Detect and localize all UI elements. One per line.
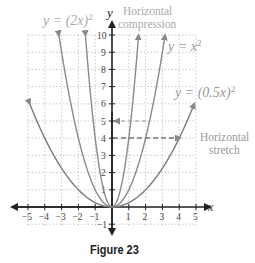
x-tick-label: −5	[22, 212, 32, 222]
y-tick-label: 9	[101, 48, 106, 58]
y-tick-label: −1	[97, 220, 107, 230]
x-tick-label: 3	[159, 212, 164, 222]
y-tick-label: 2	[101, 168, 106, 178]
y-axis-label: y	[105, 5, 113, 20]
x-tick-label: 2	[143, 212, 148, 222]
x-tick-label: −2	[72, 212, 82, 222]
x-tick-label: −3	[56, 212, 66, 222]
figure-caption: Figure 23	[90, 244, 139, 257]
y-tick-label: 10	[97, 31, 107, 41]
x-tick-label: 4	[176, 212, 181, 222]
y-tick-label: 5	[101, 117, 106, 127]
x-axis-label: x	[207, 200, 214, 214]
x-tick-label: 5	[193, 212, 198, 222]
chart-figure: −5−4−3−2−112345−112345678910 x y y = (2x…	[0, 0, 255, 263]
y-tick-label: 4	[101, 134, 106, 144]
label-y-x-squared: y = x2	[166, 38, 201, 54]
stretch-label: Horizontal stretch	[200, 131, 252, 156]
label-y-half-x-squared: y = (0.5x)2	[173, 84, 235, 101]
compression-label: Horizontal compression	[118, 5, 176, 31]
x-tick-label: −4	[39, 212, 49, 222]
x-tick-label: 1	[126, 212, 131, 222]
label-y-2x-squared: y = (2x)2	[41, 12, 93, 29]
y-tick-label: 6	[101, 99, 106, 109]
y-tick-label: 7	[101, 82, 106, 92]
y-tick-label: 3	[101, 151, 106, 161]
y-tick-label: 8	[101, 65, 106, 75]
